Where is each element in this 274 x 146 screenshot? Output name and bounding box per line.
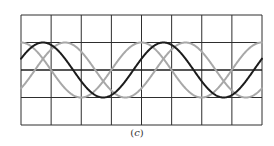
caption-close-paren: ) bbox=[140, 127, 144, 138]
oscilloscope-display bbox=[0, 0, 274, 146]
figure-caption: (c) bbox=[0, 127, 274, 138]
graticule-grid bbox=[21, 15, 262, 125]
